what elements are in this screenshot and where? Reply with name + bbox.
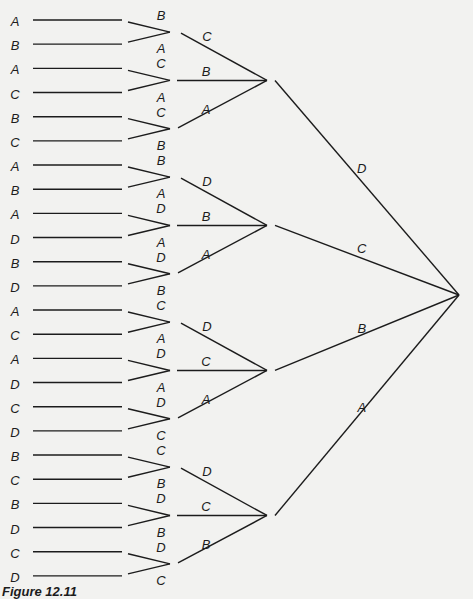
pair-branch-line xyxy=(128,554,170,564)
triple-label: D xyxy=(202,175,211,188)
triple-label: C xyxy=(201,500,210,513)
final-label: A xyxy=(357,401,366,414)
leaf-label: C xyxy=(10,474,19,487)
leaf-label: B xyxy=(11,256,20,269)
triple-label: B xyxy=(202,210,211,223)
leaf-label: B xyxy=(11,450,20,463)
leaf-label: C xyxy=(10,135,19,148)
pair-label-bottom: C xyxy=(156,573,165,586)
pair-branch-line xyxy=(128,409,170,419)
triple-label: A xyxy=(202,102,211,115)
leaf-label: A xyxy=(11,208,20,221)
leaf-label: B xyxy=(11,111,20,124)
leaf-label: A xyxy=(11,160,20,173)
pair-label-top: D xyxy=(156,540,165,553)
pair-branch-line xyxy=(128,360,170,370)
final-branch-line xyxy=(275,225,459,295)
pair-branch-line xyxy=(128,70,170,80)
pair-branch-line xyxy=(128,457,170,467)
pair-label-bottom: C xyxy=(156,428,165,441)
leaf-label: D xyxy=(10,280,19,293)
pair-branch-line xyxy=(128,505,170,515)
final-label: D xyxy=(357,161,366,174)
pair-branch-line xyxy=(128,312,170,322)
pair-label-bottom: A xyxy=(157,90,166,103)
pair-label-bottom: B xyxy=(157,477,166,490)
triple-branch-line xyxy=(181,323,267,370)
pair-label-bottom: A xyxy=(157,42,166,55)
pair-label-top: C xyxy=(156,57,165,70)
pair-label-bottom: B xyxy=(157,525,166,538)
pair-label-top: C xyxy=(156,105,165,118)
leaf-label: B xyxy=(11,184,20,197)
pair-label-bottom: A xyxy=(157,332,166,345)
leaf-label: A xyxy=(11,353,20,366)
leaf-label: A xyxy=(11,63,20,76)
pair-label-top: C xyxy=(156,444,165,457)
pair-label-top: D xyxy=(156,202,165,215)
triple-label: A xyxy=(202,392,211,405)
leaf-label: D xyxy=(10,425,19,438)
leaf-label: D xyxy=(10,377,19,390)
leaf-label: C xyxy=(10,401,19,414)
pair-branch-line xyxy=(128,167,170,177)
triple-branch-line xyxy=(178,515,267,562)
pair-branch-line xyxy=(128,215,170,225)
final-branch-line xyxy=(275,295,459,515)
pair-label-bottom: A xyxy=(157,187,166,200)
pair-branch-line xyxy=(128,119,170,129)
leaf-label: D xyxy=(10,570,19,583)
pair-label-top: B xyxy=(157,154,166,167)
pair-label-top: D xyxy=(156,347,165,360)
triple-branch-line xyxy=(178,225,267,272)
final-label: C xyxy=(357,241,366,254)
pair-label-top: D xyxy=(156,395,165,408)
pair-label-top: D xyxy=(156,492,165,505)
leaf-label: B xyxy=(11,498,20,511)
leaf-label: C xyxy=(10,546,19,559)
pair-label-bottom: B xyxy=(157,283,166,296)
leaf-label: A xyxy=(11,305,20,318)
pair-label-bottom: A xyxy=(157,380,166,393)
leaf-label: C xyxy=(10,329,19,342)
triple-label: B xyxy=(202,65,211,78)
figure-caption: Figure 12.11 xyxy=(2,584,77,599)
pair-label-top: D xyxy=(156,250,165,263)
triple-label: A xyxy=(202,247,211,260)
triple-branch-line xyxy=(181,178,267,225)
leaf-label: C xyxy=(10,87,19,100)
triple-label: B xyxy=(202,537,211,550)
pair-branch-line xyxy=(128,22,170,32)
triple-branch-line xyxy=(181,33,267,80)
triple-label: D xyxy=(202,320,211,333)
pair-label-top: C xyxy=(156,299,165,312)
final-label: B xyxy=(357,321,366,334)
triple-branch-line xyxy=(181,468,267,515)
leaf-label: D xyxy=(10,522,19,535)
triple-branch-line xyxy=(178,80,267,127)
pair-label-bottom: B xyxy=(157,138,166,151)
final-branch-line xyxy=(275,80,459,295)
leaf-label: D xyxy=(10,232,19,245)
pair-label-bottom: A xyxy=(157,235,166,248)
leaf-label: B xyxy=(11,39,20,52)
triple-label: C xyxy=(202,30,211,43)
pair-branch-line xyxy=(128,264,170,274)
leaf-label: A xyxy=(11,15,20,28)
triple-label: C xyxy=(201,355,210,368)
pair-label-top: B xyxy=(157,9,166,22)
final-branch-line xyxy=(275,295,459,370)
triple-label: D xyxy=(202,465,211,478)
triple-branch-line xyxy=(178,370,267,417)
